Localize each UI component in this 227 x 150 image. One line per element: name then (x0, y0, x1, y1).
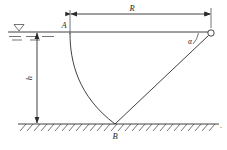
hydraulic-jet-diagram: R h A B α . (0, 0, 227, 150)
range-arrow-right (205, 12, 212, 17)
jet-ray-line (115, 36, 209, 125)
diagram-canvas: R h A B α . (0, 0, 227, 150)
ground-hatching (20, 124, 215, 131)
depth-arrow-bottom (35, 117, 40, 124)
angle-label: α (188, 37, 193, 46)
nozzle-circle-icon (208, 30, 214, 36)
depth-arrow-top (35, 33, 40, 40)
water-level-triangle-icon (14, 25, 24, 32)
depth-label: h (24, 76, 34, 80)
point-a-label: A (60, 20, 67, 30)
range-label: R (128, 3, 135, 13)
angle-arc (193, 33, 199, 44)
jet-trajectory-curve (70, 33, 115, 124)
range-arrow-left (71, 12, 78, 17)
point-b-label: B (112, 131, 117, 141)
trailing-period: . (220, 121, 222, 130)
